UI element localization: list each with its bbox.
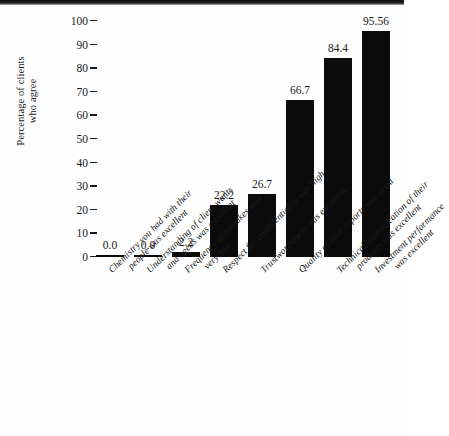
y-axis-tick-label: 50	[77, 133, 89, 145]
y-axis-title-line-2: who agree	[27, 36, 39, 166]
bar-slot: 0.0	[96, 0, 124, 257]
y-axis-tick-label: 70	[77, 86, 89, 98]
y-axis-tick: 90	[44, 38, 88, 52]
bar-value-label: 66.7	[272, 84, 328, 97]
y-axis-tick-label: 40	[77, 157, 89, 169]
y-axis-tick: 80	[44, 61, 88, 75]
y-axis-tick-label: 60	[77, 109, 89, 121]
y-axis-tick: 70	[44, 85, 88, 99]
y-axis-tick-label: 80	[77, 62, 89, 74]
bar-value-label: 26.7	[234, 178, 290, 191]
y-axis-tick: 60	[44, 108, 88, 122]
y-axis-tick: 0	[44, 250, 88, 264]
y-axis-tick-label: 30	[77, 180, 89, 192]
y-axis-tick-label: 20	[77, 204, 89, 216]
y-axis-tick-label: 10	[77, 227, 89, 239]
y-axis-tick-label: 0	[82, 251, 88, 263]
y-axis-tick-label: 100	[71, 15, 88, 27]
y-axis-tick-label: 90	[77, 39, 89, 51]
y-axis-tick: 40	[44, 156, 88, 170]
y-axis-title-line-1: Percentage of clients	[15, 36, 27, 166]
y-axis-tick: 100	[44, 14, 88, 28]
y-axis-tick: 30	[44, 179, 88, 193]
y-axis-tick: 50	[44, 132, 88, 146]
bar-value-label: 95.56	[348, 15, 404, 28]
bar-value-label: 84.4	[310, 42, 366, 55]
y-axis-tick: 20	[44, 203, 88, 217]
y-axis-title: Percentage of clients who agree	[15, 36, 45, 166]
